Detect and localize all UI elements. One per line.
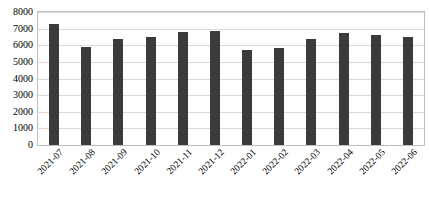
bar [274, 48, 284, 145]
y-tick-label: 6000 [0, 40, 33, 50]
y-tick-label: 1000 [0, 123, 33, 133]
y-tick-label: 7000 [0, 24, 33, 34]
x-axis: 2021-072021-082021-092021-102021-112021-… [38, 147, 424, 197]
y-tick-label: 5000 [0, 57, 33, 67]
bar [339, 33, 349, 145]
y-tick-label: 2000 [0, 107, 33, 117]
x-tick-label: 2021-10 [123, 147, 161, 185]
y-tick-label: 3000 [0, 90, 33, 100]
bar [403, 37, 413, 145]
y-tick-label: 8000 [0, 7, 33, 17]
bar-chart: 010002000300040005000600070008000 2021-0… [0, 0, 429, 197]
bars-series [38, 12, 424, 145]
y-tick-label: 0 [0, 140, 33, 150]
bar [210, 31, 220, 145]
y-axis: 010002000300040005000600070008000 [0, 11, 33, 146]
x-tick-label: 2022-03 [284, 147, 322, 185]
bar [306, 39, 316, 145]
y-tick-label: 4000 [0, 74, 33, 84]
bar [49, 24, 59, 145]
bar [371, 35, 381, 145]
bar [146, 37, 156, 145]
bar [178, 32, 188, 145]
bar [113, 39, 123, 145]
bar [81, 47, 91, 145]
x-tick-label: 2022-04 [316, 147, 354, 185]
bar [242, 50, 252, 145]
x-tick-label: 2021-09 [91, 147, 129, 185]
